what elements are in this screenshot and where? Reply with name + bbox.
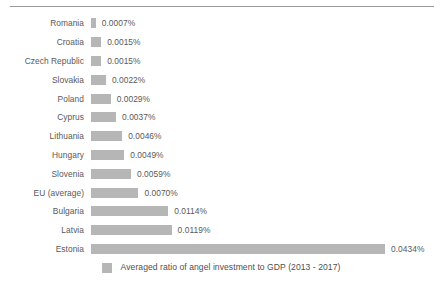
- bar: [91, 225, 172, 235]
- bar-track: 0.0070%: [84, 183, 442, 202]
- bar-row: Estonia0.0434%: [0, 240, 442, 259]
- bar-chart: Romania0.0007%Croatia0.0015%Czech Republ…: [0, 0, 442, 290]
- bar: [91, 150, 124, 160]
- bar-row: Croatia0.0015%: [0, 33, 442, 52]
- chart-plot-area: Romania0.0007%Croatia0.0015%Czech Republ…: [0, 14, 442, 258]
- bar: [91, 56, 101, 66]
- bar: [91, 188, 138, 198]
- category-label: Latvia: [0, 225, 84, 235]
- bar-value-label: 0.0022%: [112, 75, 145, 85]
- category-label: EU (average): [0, 188, 84, 198]
- bar-value-label: 0.0114%: [174, 206, 207, 216]
- bar-value-label: 0.0070%: [144, 188, 177, 198]
- chart-legend: Averaged ratio of angel investment to GD…: [0, 262, 442, 273]
- bar: [91, 206, 168, 216]
- bar-row: Latvia0.0119%: [0, 221, 442, 240]
- category-label: Cyprus: [0, 112, 84, 122]
- bar-value-label: 0.0049%: [130, 150, 163, 160]
- legend-label: Averaged ratio of angel investment to GD…: [121, 262, 341, 273]
- category-label: Romania: [0, 18, 84, 28]
- bar-track: 0.0046%: [84, 127, 442, 146]
- bar-row: Slovenia0.0059%: [0, 164, 442, 183]
- bar-track: 0.0015%: [84, 52, 442, 71]
- bar: [91, 75, 106, 85]
- bar: [91, 244, 385, 254]
- bar-value-label: 0.0434%: [391, 244, 424, 254]
- category-label: Bulgaria: [0, 206, 84, 216]
- bar: [91, 131, 122, 141]
- bar-track: 0.0059%: [84, 164, 442, 183]
- bar: [91, 169, 131, 179]
- bar-track: 0.0007%: [84, 14, 442, 33]
- category-label: Lithuania: [0, 131, 84, 141]
- bar-track: 0.0114%: [84, 202, 442, 221]
- legend-swatch-icon: [102, 263, 112, 273]
- bar-row: EU (average)0.0070%: [0, 183, 442, 202]
- bar-track: 0.0037%: [84, 108, 442, 127]
- bar-value-label: 0.0029%: [117, 94, 150, 104]
- bar-row: Czech Republic0.0015%: [0, 52, 442, 71]
- bar-track: 0.0049%: [84, 146, 442, 165]
- bar-track: 0.0022%: [84, 70, 442, 89]
- bar-row: Romania0.0007%: [0, 14, 442, 33]
- bar-value-label: 0.0119%: [178, 225, 211, 235]
- top-divider: [10, 6, 434, 7]
- bar-row: Lithuania0.0046%: [0, 127, 442, 146]
- bar-row: Cyprus0.0037%: [0, 108, 442, 127]
- bar-row: Poland0.0029%: [0, 89, 442, 108]
- bar: [91, 37, 101, 47]
- bar-value-label: 0.0007%: [102, 18, 135, 28]
- bar-value-label: 0.0015%: [107, 37, 140, 47]
- bar-track: 0.0119%: [84, 221, 442, 240]
- category-label: Hungary: [0, 150, 84, 160]
- bar-track: 0.0434%: [84, 240, 442, 259]
- bar-row: Hungary0.0049%: [0, 146, 442, 165]
- bar-value-label: 0.0046%: [128, 131, 161, 141]
- bar: [91, 112, 116, 122]
- bar-value-label: 0.0059%: [137, 169, 170, 179]
- category-label: Estonia: [0, 244, 84, 254]
- bar-track: 0.0029%: [84, 89, 442, 108]
- bar-track: 0.0015%: [84, 33, 442, 52]
- category-label: Poland: [0, 94, 84, 104]
- bar-row: Slovakia0.0022%: [0, 70, 442, 89]
- category-label: Czech Republic: [0, 56, 84, 66]
- bar-row: Bulgaria0.0114%: [0, 202, 442, 221]
- bar: [91, 18, 96, 28]
- category-label: Slovakia: [0, 75, 84, 85]
- bar-value-label: 0.0015%: [107, 56, 140, 66]
- bar-value-label: 0.0037%: [122, 112, 155, 122]
- category-label: Slovenia: [0, 169, 84, 179]
- bar: [91, 94, 111, 104]
- category-label: Croatia: [0, 37, 84, 47]
